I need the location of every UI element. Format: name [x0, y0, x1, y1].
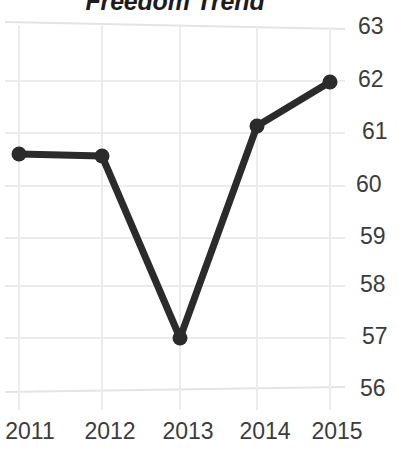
chart-plot-area — [0, 0, 398, 452]
y-tick-label-63: 63 — [358, 13, 384, 40]
vertical-gridlines — [19, 25, 330, 410]
data-point-2013 — [173, 331, 188, 346]
data-point-markers — [12, 75, 338, 346]
x-tick-label-2014: 2014 — [239, 418, 290, 445]
data-point-2011 — [12, 147, 27, 162]
data-point-2012 — [95, 149, 110, 164]
y-tick-label-58: 58 — [360, 271, 386, 298]
freedom-trend-chart: Freedom Trend 63 — [0, 0, 398, 452]
y-tick-label-56: 56 — [360, 375, 386, 402]
data-line-freedom-score — [19, 82, 330, 338]
y-tick-label-62: 62 — [358, 66, 384, 93]
y-tick-label-59: 59 — [360, 223, 386, 250]
y-tick-label-61: 61 — [362, 118, 388, 145]
x-tick-label-2013: 2013 — [162, 418, 213, 445]
x-tick-label-2012: 2012 — [84, 418, 135, 445]
y-tick-label-57: 57 — [362, 323, 388, 350]
y-tick-label-60: 60 — [356, 171, 382, 198]
x-tick-label-2015: 2015 — [311, 418, 362, 445]
data-point-2015 — [323, 75, 338, 90]
x-tick-label-2011: 2011 — [5, 418, 54, 445]
data-point-2014 — [250, 119, 265, 134]
